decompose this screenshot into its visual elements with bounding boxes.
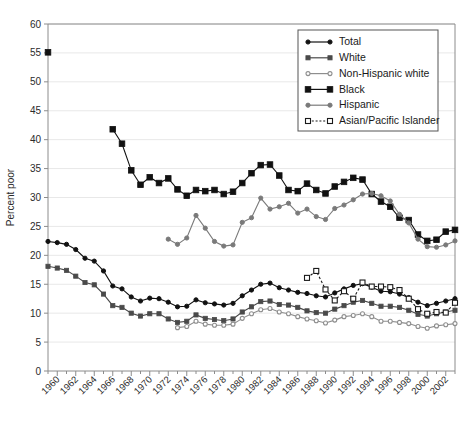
legend-marker xyxy=(328,103,332,107)
data-point xyxy=(185,319,189,323)
data-point xyxy=(120,305,124,309)
data-point xyxy=(165,176,171,182)
data-point xyxy=(221,191,227,197)
legend-label: Non-Hispanic white xyxy=(339,67,430,79)
data-point xyxy=(332,184,338,190)
data-point xyxy=(342,315,346,319)
x-tick-label: 1984 xyxy=(261,374,284,397)
data-point xyxy=(46,239,50,243)
data-point xyxy=(259,308,263,312)
data-point xyxy=(443,229,449,235)
data-point xyxy=(166,317,170,321)
data-point xyxy=(434,245,438,249)
x-tick-label: 1972 xyxy=(150,374,173,397)
legend-label: Black xyxy=(339,83,365,95)
data-point xyxy=(129,311,133,315)
data-point xyxy=(424,238,430,244)
data-point xyxy=(434,310,439,315)
data-point xyxy=(111,284,115,288)
data-point xyxy=(407,322,411,326)
y-tick-label: 25 xyxy=(30,221,42,232)
data-point xyxy=(406,296,411,301)
data-point xyxy=(388,319,392,323)
data-point xyxy=(212,187,218,193)
data-point xyxy=(240,220,244,224)
data-point xyxy=(175,305,179,309)
x-tick-label: 1970 xyxy=(131,374,154,397)
data-point xyxy=(351,313,355,317)
data-point xyxy=(388,304,392,308)
data-point xyxy=(333,307,337,311)
legend-label: Hispanic xyxy=(339,98,379,110)
data-point xyxy=(74,274,78,278)
data-point xyxy=(138,299,142,303)
data-point xyxy=(453,308,457,312)
x-tick-label: 1988 xyxy=(298,374,321,397)
x-tick-label: 1998 xyxy=(390,374,413,397)
data-point xyxy=(212,239,216,243)
data-point xyxy=(379,284,384,289)
data-point xyxy=(351,283,355,287)
data-point xyxy=(296,211,300,215)
data-point xyxy=(444,299,448,303)
data-point xyxy=(110,126,116,132)
y-tick-label: 55 xyxy=(30,47,42,58)
y-tick-label: 35 xyxy=(30,163,42,174)
data-point xyxy=(360,298,364,302)
data-point xyxy=(361,312,365,316)
data-point xyxy=(379,304,383,308)
data-point xyxy=(111,304,115,308)
legend-marker xyxy=(306,72,310,76)
data-point xyxy=(184,193,190,199)
y-tick-label: 10 xyxy=(30,308,42,319)
data-point xyxy=(295,188,301,194)
data-point xyxy=(222,319,226,323)
data-point xyxy=(397,288,402,293)
x-tick-label: 1974 xyxy=(168,374,191,397)
data-point xyxy=(379,289,383,293)
data-point xyxy=(259,196,263,200)
legend-label: White xyxy=(339,51,366,63)
data-point xyxy=(222,323,226,327)
data-point xyxy=(416,307,421,312)
data-point xyxy=(92,283,96,287)
data-point xyxy=(453,322,457,326)
data-point xyxy=(341,179,347,185)
x-axis: 1960196219641966196819701972197419761978… xyxy=(39,371,455,396)
data-point xyxy=(314,294,318,298)
data-point xyxy=(397,212,401,216)
data-point xyxy=(444,243,448,247)
data-point xyxy=(332,298,337,303)
data-point xyxy=(258,162,264,168)
data-point xyxy=(296,290,300,294)
y-axis: 051015202530354045505560 xyxy=(30,19,48,377)
y-tick-label: 5 xyxy=(35,337,41,348)
data-point xyxy=(333,291,337,295)
data-point xyxy=(157,312,161,316)
data-point xyxy=(55,266,59,270)
data-point xyxy=(443,310,448,315)
data-point xyxy=(74,247,78,251)
data-point xyxy=(342,203,346,207)
legend-marker xyxy=(306,56,310,60)
data-point xyxy=(370,191,374,195)
data-point xyxy=(268,281,272,285)
data-point xyxy=(379,319,383,323)
data-point xyxy=(286,288,290,292)
data-point xyxy=(148,312,152,316)
data-point xyxy=(231,317,235,321)
legend-marker xyxy=(328,40,332,44)
data-point xyxy=(185,324,189,328)
x-tick-label: 2000 xyxy=(409,374,432,397)
data-point xyxy=(323,217,327,221)
data-point xyxy=(379,194,383,198)
data-point xyxy=(156,180,162,186)
data-point xyxy=(425,311,430,316)
data-point xyxy=(231,322,235,326)
data-point xyxy=(129,295,133,299)
data-point xyxy=(138,314,142,318)
data-point xyxy=(203,322,207,326)
data-point xyxy=(388,285,393,290)
data-point xyxy=(369,284,374,289)
data-point xyxy=(407,221,411,225)
